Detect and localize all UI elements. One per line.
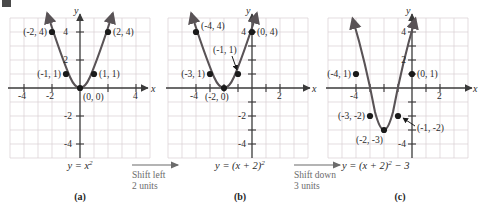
point-label-c-1: (0, 1) bbox=[417, 69, 438, 80]
equation-a-text: y = x2 bbox=[67, 160, 92, 171]
y-tick-a-0: 4 bbox=[63, 27, 68, 37]
panel-letter-a: (a) bbox=[0, 191, 160, 202]
arrow-right-icon-2 bbox=[292, 160, 348, 170]
x-tick-c-0: -4 bbox=[350, 91, 358, 101]
point-label-c-2: (-3, -2) bbox=[338, 111, 365, 122]
panel-letter-b: (b) bbox=[160, 191, 320, 202]
y-tick-b-2: -4 bbox=[238, 139, 246, 149]
transition-shift-down: Shift down 3 units bbox=[292, 160, 348, 192]
x-axis-label-b: x bbox=[311, 83, 317, 94]
x-tick-a-0: -4 bbox=[18, 91, 26, 101]
point-label-c-0: (-4, 1) bbox=[327, 69, 351, 80]
point-label-b-2: (-3, 1) bbox=[181, 69, 205, 80]
curve-arrow-left-a bbox=[47, 13, 49, 21]
x-tick-a-2: 4 bbox=[133, 91, 138, 101]
point-label-b-0: (-4, 4) bbox=[201, 21, 225, 32]
point-label-c-3: (-1, -2) bbox=[417, 123, 444, 134]
transition-1-line2: 2 units bbox=[130, 181, 186, 192]
curve-arrow-right-b bbox=[255, 13, 257, 21]
point-label-b-1: (0, 4) bbox=[257, 27, 278, 38]
panel-letter-c: (c) bbox=[320, 191, 480, 202]
y-tick-c-1: 2 bbox=[401, 55, 406, 65]
parabola-transformation-figure: y x -4 -2 4 4 2 -2 -4 (-2, 4) (2, 4) (-1… bbox=[0, 0, 481, 212]
curve-arrow-right-c bbox=[413, 19, 415, 27]
transition-shift-left: Shift left 2 units bbox=[130, 160, 186, 192]
transition-1-line1: Shift left bbox=[130, 170, 186, 181]
equation-c-text: y = (x + 2)2 − 3 bbox=[342, 160, 409, 171]
graph-b: y x -4 2 4 -2 -4 (-4, 4) (0, 4) (-3, 1) … bbox=[160, 0, 320, 160]
y-tick-c-0: 4 bbox=[401, 27, 406, 37]
x-tick-c-1: 2 bbox=[437, 91, 442, 101]
x-axis-label-a: x bbox=[150, 83, 156, 94]
x-tick-b-1: 2 bbox=[277, 91, 282, 101]
y-tick-b-0: 4 bbox=[241, 27, 246, 37]
y-tick-b-1: -2 bbox=[238, 111, 246, 121]
point-label-a-0: (-2, 4) bbox=[23, 27, 47, 38]
y-axis-label-c: y bbox=[405, 5, 411, 16]
curve-arrow-left-c bbox=[353, 19, 355, 27]
y-tick-a-3: -4 bbox=[64, 139, 72, 149]
point-label-a-4: (0, 0) bbox=[83, 92, 104, 103]
y-axis-label-a: y bbox=[73, 5, 79, 16]
y-tick-a-2: -2 bbox=[64, 111, 72, 121]
equation-b-text: y = (x + 2)2 bbox=[215, 160, 265, 171]
point-label-a-1: (2, 4) bbox=[113, 27, 134, 38]
leader-line-b bbox=[232, 56, 237, 70]
curve-arrow-right-a bbox=[111, 13, 113, 21]
transition-2-line1: Shift down bbox=[292, 170, 348, 181]
curve-arrow-left-b bbox=[191, 13, 193, 21]
x-axis-label-c: x bbox=[472, 83, 478, 94]
point-label-a-2: (-1, 1) bbox=[37, 69, 61, 80]
transition-2-line2: 3 units bbox=[292, 181, 348, 192]
x-tick-a-1: -2 bbox=[46, 91, 54, 101]
graph-a: y x -4 -2 4 4 2 -2 -4 (-2, 4) (2, 4) (-1… bbox=[0, 0, 160, 160]
y-tick-a-1: 2 bbox=[63, 55, 68, 65]
y-axis-label-b: y bbox=[245, 5, 251, 16]
x-tick-b-0: -4 bbox=[190, 91, 198, 101]
point-label-c-4: (-2, -3) bbox=[356, 135, 383, 146]
point-label-b-3: (-1, 1) bbox=[213, 45, 237, 56]
y-tick-c-2: -4 bbox=[398, 139, 406, 149]
arrow-right-icon-1 bbox=[130, 160, 186, 170]
graph-c: y x -4 2 4 2 -4 (-4, 1) (0, 1) (-3, -2) … bbox=[320, 0, 481, 160]
point-label-b-4: (-2, 0) bbox=[205, 92, 229, 103]
point-label-a-3: (1, 1) bbox=[99, 69, 120, 80]
leader-line-c bbox=[403, 118, 415, 126]
